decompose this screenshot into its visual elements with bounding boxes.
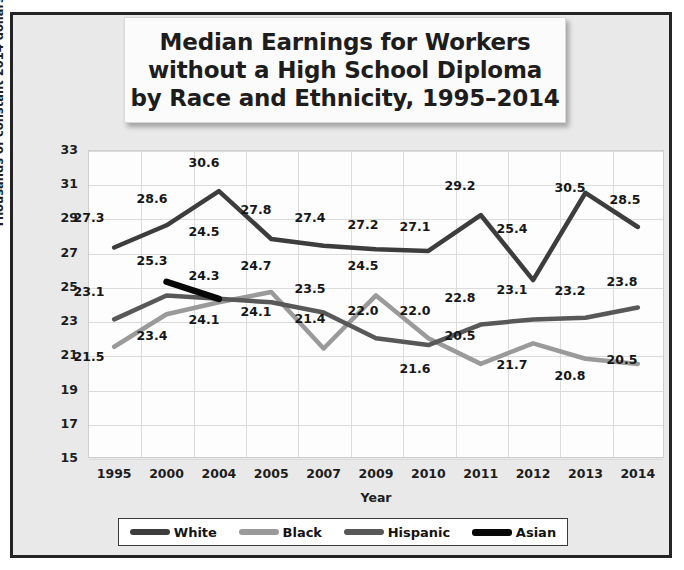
- data-point-label: 27.1: [397, 219, 433, 234]
- data-point-label: 21.7: [494, 357, 530, 372]
- y-tick-label: 17: [40, 416, 78, 431]
- data-point-label: 28.5: [607, 192, 643, 207]
- data-point-label: 23.1: [494, 282, 530, 297]
- y-tick-label: 15: [40, 450, 78, 465]
- chart-title-plaque: Median Earnings for Workerswithout a Hig…: [124, 17, 566, 123]
- x-tick-label: 2005: [241, 466, 301, 481]
- chart-title-line-1: without a High School Diploma: [130, 56, 559, 84]
- y-tick-label: 19: [40, 382, 78, 397]
- data-point-label: 23.8: [604, 274, 640, 289]
- data-point-label: 24.5: [345, 258, 381, 273]
- x-tick-label: 2010: [398, 466, 458, 481]
- data-point-label: 27.8: [238, 202, 274, 217]
- x-tick-label: 2014: [608, 466, 668, 481]
- y-tick-label: 27: [40, 245, 78, 260]
- x-tick-label: 2009: [346, 466, 406, 481]
- legend-item-asian[interactable]: Asian: [472, 525, 556, 540]
- data-point-label: 29.2: [442, 178, 478, 193]
- x-tick-label: 2000: [137, 466, 197, 481]
- data-point-label: 21.5: [71, 349, 107, 364]
- chart-title-line-0: Median Earnings for Workers: [130, 28, 559, 56]
- legend-item-white[interactable]: White: [130, 525, 217, 540]
- data-point-label: 22.0: [345, 303, 381, 318]
- gridline-horizontal: [89, 459, 663, 460]
- y-axis-title: Thousands of constant 2014 dollars: [0, 0, 6, 232]
- data-point-label: 24.3: [186, 268, 222, 283]
- x-tick-label: 1995: [84, 466, 144, 481]
- data-point-label: 24.5: [186, 224, 222, 239]
- y-tick-label: 33: [40, 142, 78, 157]
- legend-label: White: [174, 525, 217, 540]
- data-point-label: 30.6: [186, 155, 222, 170]
- legend-swatch-icon: [130, 529, 170, 535]
- data-point-label: 24.1: [238, 304, 274, 319]
- data-point-label: 25.3: [134, 253, 170, 268]
- chart-legend: WhiteBlackHispanicAsian: [118, 518, 568, 546]
- chart-screenshot: 33312927252321191715 1995200020042005200…: [0, 0, 684, 570]
- data-point-label: 23.1: [71, 284, 107, 299]
- chart-title-line-2: by Race and Ethnicity, 1995–2014: [130, 84, 559, 112]
- chart-title: Median Earnings for Workerswithout a Hig…: [124, 28, 565, 112]
- y-tick-label: 31: [40, 176, 78, 191]
- data-point-label: 23.4: [134, 328, 170, 343]
- legend-swatch-icon: [344, 529, 384, 535]
- data-point-label: 27.3: [71, 210, 107, 225]
- data-point-label: 22.0: [397, 303, 433, 318]
- data-point-label: 30.5: [552, 180, 588, 195]
- data-point-label: 27.2: [345, 217, 381, 232]
- data-point-label: 28.6: [134, 191, 170, 206]
- x-tick-label: 2004: [189, 466, 249, 481]
- data-point-label: 21.6: [397, 361, 433, 376]
- y-tick-label: 23: [40, 313, 78, 328]
- legend-label: Hispanic: [388, 525, 451, 540]
- data-point-label: 25.4: [494, 221, 530, 236]
- data-point-label: 23.5: [292, 281, 328, 296]
- data-point-label: 21.4: [292, 311, 328, 326]
- legend-item-black[interactable]: Black: [239, 525, 323, 540]
- data-point-label: 22.8: [442, 290, 478, 305]
- data-point-label: 23.2: [552, 283, 588, 298]
- data-point-label: 20.5: [442, 328, 478, 343]
- legend-label: Black: [283, 525, 323, 540]
- x-tick-label: 2013: [555, 466, 615, 481]
- data-point-label: 24.7: [238, 258, 274, 273]
- data-point-label: 20.8: [552, 368, 588, 383]
- x-axis-title: Year: [88, 490, 664, 505]
- x-tick-label: 2007: [294, 466, 354, 481]
- data-point-label: 27.4: [292, 210, 328, 225]
- legend-label: Asian: [516, 525, 556, 540]
- data-point-label: 20.5: [604, 352, 640, 367]
- x-tick-label: 2011: [451, 466, 511, 481]
- legend-item-hispanic[interactable]: Hispanic: [344, 525, 451, 540]
- legend-swatch-icon: [239, 529, 279, 535]
- data-point-label: 24.1: [186, 312, 222, 327]
- x-tick-label: 2012: [503, 466, 563, 481]
- legend-swatch-icon: [472, 529, 512, 536]
